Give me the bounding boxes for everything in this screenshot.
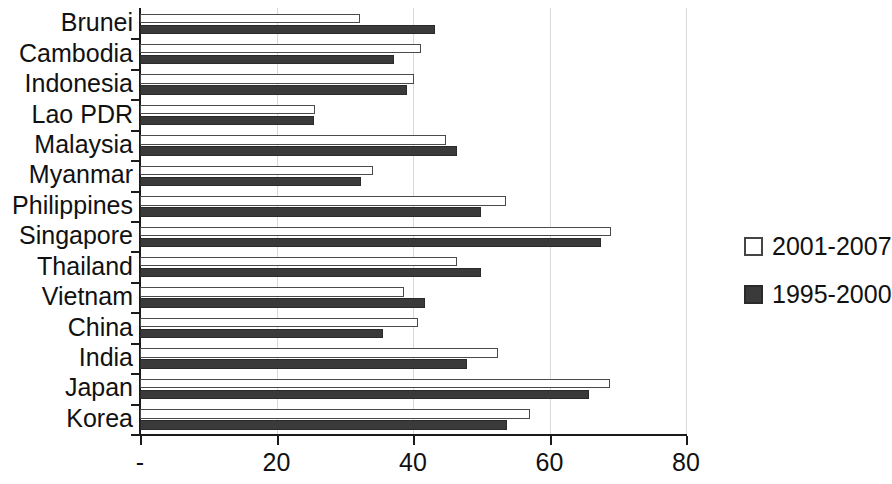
category-label-singapore: Singapore: [0, 222, 133, 249]
bar-korea-1995-2000: [140, 420, 507, 430]
bar-indonesia-2001-2007: [140, 74, 414, 84]
x-tick-20: [277, 436, 279, 445]
category-label-lao-pdr: Lao PDR: [0, 101, 133, 128]
bar-lao-pdr-2001-2007: [140, 105, 315, 115]
bar-malaysia-1995-2000: [140, 146, 457, 156]
category-label-cambodia: Cambodia: [0, 40, 133, 67]
legend-item-2001-2007[interactable]: 2001-2007: [744, 222, 881, 270]
y-tick-thailand: [131, 282, 140, 284]
legend-swatch-icon-2001-2007: [744, 237, 763, 256]
bar-china-1995-2000: [140, 329, 383, 339]
gridline-80: [686, 8, 687, 434]
category-label-thailand: Thailand: [0, 253, 133, 280]
bar-philippines-1995-2000: [140, 207, 481, 217]
legend: 2001-20071995-2000: [744, 222, 881, 318]
x-tick-40: [413, 436, 415, 445]
y-tick-japan: [131, 404, 140, 406]
legend-item-1995-2000[interactable]: 1995-2000: [744, 270, 881, 318]
category-label-indonesia: Indonesia: [0, 70, 133, 97]
bar-cambodia-2001-2007: [140, 44, 421, 54]
x-tick-label-80: 80: [646, 447, 726, 477]
y-tick-brunei: [131, 38, 140, 40]
category-label-brunei: Brunei: [0, 9, 133, 36]
x-tick-label-20: 20: [237, 447, 317, 477]
y-tick-vietnam: [131, 312, 140, 314]
y-tick-indonesia: [131, 99, 140, 101]
y-tick-singapore: [131, 251, 140, 253]
bar-singapore-2001-2007: [140, 227, 611, 237]
legend-swatch-icon-1995-2000: [744, 285, 763, 304]
x-tick-0: [140, 436, 142, 445]
bar-myanmar-1995-2000: [140, 177, 361, 187]
category-label-india: India: [0, 344, 133, 371]
bar-brunei-1995-2000: [140, 25, 435, 35]
category-label-malaysia: Malaysia: [0, 131, 133, 158]
category-axis: BruneiCambodiaIndonesiaLao PDRMalaysiaMy…: [0, 0, 133, 426]
x-tick-80: [686, 436, 688, 445]
category-label-korea: Korea: [0, 405, 133, 432]
bar-korea-2001-2007: [140, 409, 530, 419]
bar-cambodia-1995-2000: [140, 55, 394, 65]
category-label-vietnam: Vietnam: [0, 283, 133, 310]
bar-brunei-2001-2007: [140, 14, 360, 24]
bar-myanmar-2001-2007: [140, 166, 373, 176]
y-tick-korea: [131, 434, 140, 436]
bar-lao-pdr-1995-2000: [140, 116, 314, 126]
bar-thailand-2001-2007: [140, 257, 457, 267]
x-tick-60: [550, 436, 552, 445]
plot-area: [140, 8, 686, 434]
y-tick-lao-pdr: [131, 130, 140, 132]
bar-thailand-1995-2000: [140, 268, 481, 278]
bar-singapore-1995-2000: [140, 238, 601, 248]
legend-label: 1995-2000: [772, 281, 892, 308]
x-tick-label-60: 60: [510, 447, 590, 477]
bar-china-2001-2007: [140, 318, 418, 328]
bar-malaysia-2001-2007: [140, 135, 446, 145]
y-tick-china: [131, 343, 140, 345]
category-label-japan: Japan: [0, 374, 133, 401]
bar-philippines-2001-2007: [140, 196, 506, 206]
legend-label: 2001-2007: [772, 233, 892, 260]
bar-vietnam-1995-2000: [140, 298, 425, 308]
bar-vietnam-2001-2007: [140, 287, 404, 297]
category-label-myanmar: Myanmar: [0, 161, 133, 188]
category-label-china: China: [0, 314, 133, 341]
bar-japan-1995-2000: [140, 390, 589, 400]
y-tick-malaysia: [131, 160, 140, 162]
category-label-philippines: Philippines: [0, 192, 133, 219]
bar-indonesia-1995-2000: [140, 85, 407, 95]
bar-india-1995-2000: [140, 359, 467, 369]
bar-japan-2001-2007: [140, 379, 610, 389]
x-tick-label-0: -: [100, 447, 180, 477]
bar-india-2001-2007: [140, 348, 498, 358]
x-tick-label-40: 40: [373, 447, 453, 477]
y-tick-india: [131, 373, 140, 375]
y-tick-philippines: [131, 221, 140, 223]
y-tick-myanmar: [131, 191, 140, 193]
y-tick-cambodia: [131, 69, 140, 71]
